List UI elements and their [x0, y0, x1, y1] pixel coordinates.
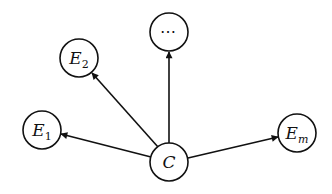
node-e1-subscript: 1 [45, 130, 52, 143]
node-ellipsis: ⋯ [150, 13, 188, 51]
edge-c-to-e2 [92, 73, 158, 147]
node-c: C [150, 143, 188, 181]
node-e1: E1 [23, 111, 61, 149]
node-em: Em [278, 114, 316, 152]
edge-c-to-e1 [61, 134, 151, 157]
node-c-label: C [162, 152, 175, 172]
node-em-subscript: m [298, 133, 308, 146]
graph-diagram: C E1 E2 ⋯ Em [0, 0, 332, 194]
node-e2-subscript: 2 [82, 58, 89, 71]
node-e2: E2 [60, 39, 98, 77]
node-e1-label: E [31, 120, 45, 140]
edge-c-to-em [188, 137, 278, 158]
node-em-label: E [285, 123, 299, 143]
node-e2-label: E [68, 48, 82, 68]
node-ellipsis-label: ⋯ [160, 22, 178, 41]
